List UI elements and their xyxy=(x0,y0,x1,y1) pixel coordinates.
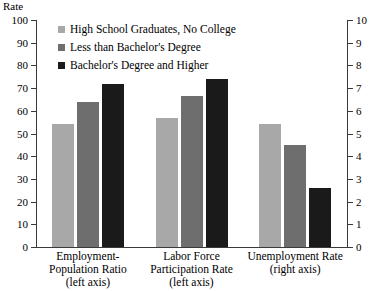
right-axis-tick-label: 5 xyxy=(356,129,378,140)
right-axis-tick-label: 0 xyxy=(356,242,378,253)
left-axis-tick-label: 20 xyxy=(2,197,28,208)
right-axis-tick xyxy=(348,43,353,44)
category-label-line: (left axis) xyxy=(36,276,140,289)
left-axis-tick-label: 60 xyxy=(2,106,28,117)
category-label-line: Labor Force xyxy=(140,250,244,263)
left-axis-tick-label: 50 xyxy=(2,129,28,140)
left-axis-tick-label: 0 xyxy=(2,242,28,253)
right-axis-tick xyxy=(348,88,353,89)
right-axis-tick xyxy=(348,134,353,135)
legend-item: Less than Bachelor's Degree xyxy=(58,39,236,55)
category-axis-labels: Employment-Population Ratio(left axis)La… xyxy=(36,250,347,291)
bar xyxy=(181,96,203,247)
right-axis-tick-label: 7 xyxy=(356,83,378,94)
left-axis-tick-label: 30 xyxy=(2,174,28,185)
legend-swatch-icon xyxy=(58,62,65,69)
category-label: Labor ForceParticipation Rate(left axis) xyxy=(140,250,244,289)
right-axis-tick xyxy=(348,111,353,112)
bar xyxy=(156,118,178,247)
right-axis-tick xyxy=(348,179,353,180)
bar xyxy=(206,79,228,247)
bar xyxy=(284,145,306,247)
x-axis-line xyxy=(36,247,348,248)
bar xyxy=(102,84,124,247)
right-axis-tick xyxy=(348,65,353,66)
bar xyxy=(309,188,331,247)
left-axis-tick-label: 40 xyxy=(2,151,28,162)
right-axis-tick-label: 6 xyxy=(356,106,378,117)
legend-item: High School Graduates, No College xyxy=(58,21,236,37)
category-label: Unemployment Rate(right axis) xyxy=(243,250,347,276)
left-axis-tick-label: 90 xyxy=(2,38,28,49)
bar-chart: Rate 1009080706050403020100109876543210 … xyxy=(0,0,382,291)
chart-legend: High School Graduates, No CollegeLess th… xyxy=(58,21,236,75)
legend-item-label: Less than Bachelor's Degree xyxy=(70,41,201,53)
right-axis-tick xyxy=(348,20,353,21)
legend-swatch-icon xyxy=(58,44,65,51)
legend-item: Bachelor's Degree and Higher xyxy=(58,57,236,73)
right-axis-tick-label: 9 xyxy=(356,38,378,49)
legend-item-label: Bachelor's Degree and Higher xyxy=(70,59,208,71)
category-label-line: (right axis) xyxy=(243,263,347,276)
left-axis-tick-label: 100 xyxy=(2,15,28,26)
left-axis-title: Rate xyxy=(3,0,23,12)
bar xyxy=(52,124,74,247)
category-label-line: (left axis) xyxy=(140,276,244,289)
category-label-line: Employment- xyxy=(36,250,140,263)
left-axis-tick-label: 70 xyxy=(2,83,28,94)
right-axis-tick-label: 3 xyxy=(356,174,378,185)
right-axis-tick xyxy=(348,247,353,248)
right-axis-tick-label: 8 xyxy=(356,60,378,71)
right-axis-tick-label: 2 xyxy=(356,197,378,208)
category-label-line: Participation Rate xyxy=(140,263,244,276)
category-label-line: Population Ratio xyxy=(36,263,140,276)
right-axis-tick-label: 4 xyxy=(356,151,378,162)
category-label-line: Unemployment Rate xyxy=(243,250,347,263)
right-axis-tick-label: 1 xyxy=(356,219,378,230)
right-axis-tick-label: 10 xyxy=(356,15,378,26)
left-axis-tick xyxy=(31,247,36,248)
left-axis-tick-label: 10 xyxy=(2,219,28,230)
right-axis-tick xyxy=(348,202,353,203)
category-label: Employment-Population Ratio(left axis) xyxy=(36,250,140,289)
bar xyxy=(77,102,99,247)
left-axis-tick-label: 80 xyxy=(2,60,28,71)
right-axis-tick xyxy=(348,224,353,225)
legend-item-label: High School Graduates, No College xyxy=(70,23,236,35)
legend-swatch-icon xyxy=(58,26,65,33)
right-axis-tick xyxy=(348,156,353,157)
bar xyxy=(259,124,281,247)
